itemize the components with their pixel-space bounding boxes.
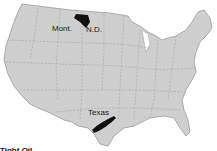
label-north-dakota: N.D.	[86, 25, 102, 34]
caption: Tight Oil	[0, 146, 32, 151]
label-montana: Mont.	[52, 24, 72, 33]
label-texas: Texas	[88, 108, 109, 117]
us-map	[0, 0, 217, 151]
